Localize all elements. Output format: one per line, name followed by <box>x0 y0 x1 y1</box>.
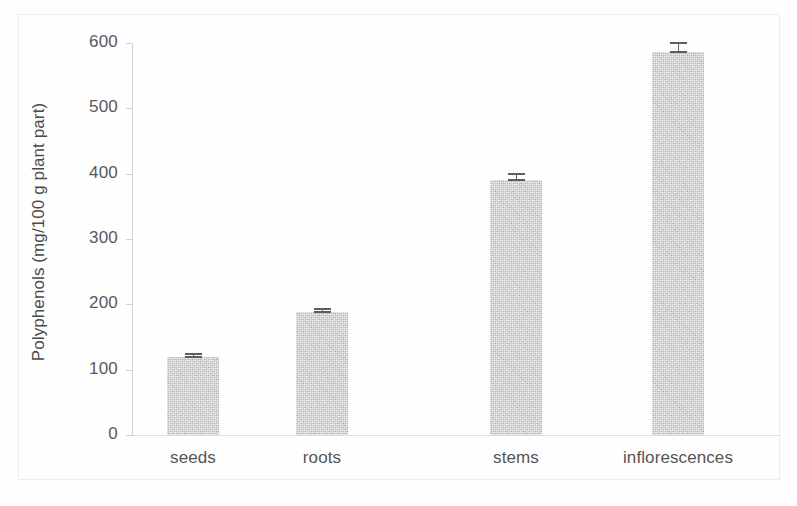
y-axis-title: Polyphenols (mg/100 g plant part) <box>29 72 49 392</box>
y-tick-label: 500 <box>56 97 118 117</box>
bar-seeds[interactable] <box>167 357 219 435</box>
y-tick-label: 0 <box>56 424 118 444</box>
y-axis-ticks: 0100200300400500600 <box>50 0 122 506</box>
x-tick-label-roots: roots <box>227 448 417 468</box>
y-tick-mark <box>126 108 133 109</box>
bar-roots[interactable] <box>296 312 348 435</box>
error-bar-cap-top-stems <box>508 173 525 175</box>
error-bar-cap-bottom-inflorescences <box>670 51 687 53</box>
figure-border-left <box>18 14 19 480</box>
error-bar-cap-bottom-stems <box>508 179 525 181</box>
error-bar-cap-top-seeds <box>185 353 202 355</box>
x-axis-line <box>132 435 780 436</box>
bar-group-stems[interactable] <box>490 43 542 435</box>
y-tick-mark <box>126 304 133 305</box>
bar-inflorescences[interactable] <box>652 52 704 435</box>
figure-border-bottom <box>18 479 780 480</box>
error-bar-cap-bottom-seeds <box>185 356 202 358</box>
y-tick-label: 300 <box>56 228 118 248</box>
bar-group-inflorescences[interactable] <box>652 43 704 435</box>
y-tick-label: 200 <box>56 293 118 313</box>
error-bar-cap-bottom-roots <box>314 311 331 313</box>
y-tick-mark <box>126 43 133 44</box>
figure-border-top <box>18 14 780 15</box>
y-tick-label: 100 <box>56 359 118 379</box>
y-tick-label: 600 <box>56 32 118 52</box>
y-tick-mark <box>126 370 133 371</box>
bar-group-roots[interactable] <box>296 43 348 435</box>
y-tick-mark <box>126 435 133 436</box>
y-tick-mark <box>126 174 133 175</box>
error-bar-cap-top-roots <box>314 308 331 310</box>
y-tick-label: 400 <box>56 163 118 183</box>
x-tick-label-inflorescences: inflorescences <box>583 448 773 468</box>
figure-canvas: Polyphenols (mg/100 g plant part) 010020… <box>0 0 797 506</box>
bar-stems[interactable] <box>490 180 542 435</box>
bar-group-seeds[interactable] <box>167 43 219 435</box>
y-tick-mark <box>126 239 133 240</box>
error-bar-cap-top-inflorescences <box>670 42 687 44</box>
plot-area <box>140 43 780 435</box>
